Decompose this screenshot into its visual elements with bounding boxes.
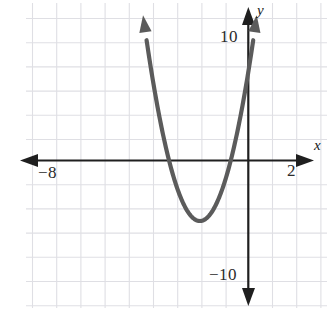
- grid-lines: [26, 3, 327, 308]
- x-axis-name-label: x: [314, 137, 321, 154]
- y-axis-tick-label-positive: 10: [220, 27, 238, 47]
- x-axis-tick-label-negative: −8: [38, 163, 57, 183]
- y-axis-bottom-arrowhead: [242, 288, 255, 306]
- y-axis-name-label: y: [257, 2, 264, 19]
- graph-canvas: [0, 0, 333, 311]
- parabola-curve: [139, 15, 260, 221]
- x-axis-left-arrowhead: [20, 154, 38, 167]
- grid-horizontal-lines: [26, 19, 327, 306]
- grid-vertical-lines: [33, 3, 321, 308]
- x-axis-tick-label-positive: 2: [287, 161, 296, 181]
- x-axis-right-arrowhead: [296, 154, 314, 167]
- y-axis-tick-label-negative: −10: [209, 265, 237, 285]
- parabola-figure: −8 2 10 −10 x y: [0, 0, 333, 311]
